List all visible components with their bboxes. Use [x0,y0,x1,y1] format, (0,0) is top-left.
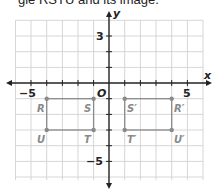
origin-label: O [97,87,106,100]
x-tick-label-neg5: −5 [19,87,36,100]
x-axis-label: x [203,69,212,82]
y-axis-down-arrow-icon [106,183,112,189]
coordinate-plane: x y O −5 5 3 −5 R S T U S′ R′ T′ U′ [0,0,214,189]
point-label-s: S [84,103,91,114]
point-label-t: T [84,134,92,145]
point-label-r-prime: R′ [174,103,185,114]
y-axis-label: y [113,7,121,20]
y-axis-up-arrow-icon [106,11,112,17]
point-label-s-prime: S′ [127,103,137,114]
y-tick-label-3: 3 [96,30,104,43]
point-label-u-prime: U′ [174,134,185,145]
x-axis-left-arrow-icon [6,80,12,86]
y-tick-label-neg5: −5 [86,155,103,168]
point-label-t-prime: T′ [127,134,137,145]
x-tick-label-5: 5 [183,87,191,100]
point-label-u: U [37,134,45,145]
point-label-r: R [37,103,45,114]
